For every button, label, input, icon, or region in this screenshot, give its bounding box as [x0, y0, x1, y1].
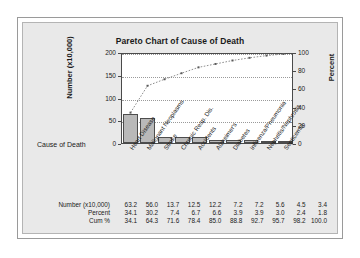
y-axis-left-tick-mark	[118, 99, 121, 100]
figure-panel: Pareto Chart of Cause of Death Number (x…	[22, 22, 338, 234]
table-row: Cum %34.164.371.678.485.088.892.795.798.…	[37, 216, 327, 224]
y-axis-left-tick-label: 100	[90, 95, 116, 102]
table-cell: 3.9	[242, 208, 263, 216]
y-axis-left-title: Number (x10,000)	[65, 18, 74, 118]
data-point-marker	[164, 78, 166, 80]
data-point-marker	[198, 66, 200, 68]
table-cell: 4.5	[285, 200, 306, 208]
y-axis-right-tick-mark	[293, 71, 296, 72]
table-cell: 30.2	[137, 208, 158, 216]
table-cell: 34.1	[116, 216, 137, 224]
table-cell: 6.6	[200, 208, 221, 216]
data-table: Number (x10,000)63.256.013.712.512.27.27…	[37, 200, 327, 225]
y-axis-left-tick-label: 50	[90, 117, 116, 124]
table-cell: 7.2	[221, 200, 242, 208]
table-cell: 13.7	[158, 200, 179, 208]
y-axis-left-tick-label: 150	[90, 72, 116, 79]
data-point-marker	[215, 63, 217, 65]
y-axis-right-tick-label: 80	[298, 67, 320, 74]
table-cell: 85.0	[200, 216, 221, 224]
x-axis-title: Cause of Death	[37, 141, 86, 148]
table-cell: 92.7	[242, 216, 263, 224]
table-cell: 56.0	[137, 200, 158, 208]
table-cell: 3.9	[221, 208, 242, 216]
y-axis-left-tick-label: 0	[90, 140, 116, 147]
table-cell: 71.6	[158, 216, 179, 224]
table-cell: 6.7	[179, 208, 200, 216]
data-point-marker	[130, 112, 132, 114]
y-axis-left-tick-mark	[118, 53, 121, 54]
table-cell: 98.2	[285, 216, 306, 224]
y-axis-left-tick-mark	[118, 76, 121, 77]
y-axis-right-title: Percent	[327, 18, 336, 118]
y-axis-right-tick-label: 100	[298, 49, 320, 56]
table-row: Percent34.130.27.46.76.63.93.93.02.41.8	[37, 208, 327, 216]
table-cell: 88.8	[221, 216, 242, 224]
table-cell: 5.6	[264, 200, 285, 208]
table-cell: 78.4	[179, 216, 200, 224]
table-cell: 2.4	[285, 208, 306, 216]
data-point-marker	[232, 60, 234, 62]
data-point-marker	[283, 53, 285, 55]
y-axis-left-tick-mark	[118, 144, 121, 145]
table-cell: 3.0	[264, 208, 285, 216]
table-cell: 7.4	[158, 208, 179, 216]
y-axis-right-tick-mark	[293, 53, 296, 54]
figure-outer-border: Pareto Chart of Cause of Death Number (x…	[17, 17, 343, 239]
data-point-marker	[147, 85, 149, 87]
table-row-label: Number (x10,000)	[37, 200, 116, 208]
table-row-label: Percent	[37, 208, 116, 216]
table-cell: 100.0	[306, 216, 327, 224]
table-row: Number (x10,000)63.256.013.712.512.27.27…	[37, 200, 327, 208]
table-cell: 34.1	[116, 208, 137, 216]
table-cell: 95.7	[264, 216, 285, 224]
y-axis-right-tick-mark	[293, 89, 296, 90]
y-axis-right-tick-label: 60	[298, 85, 320, 92]
y-axis-right-tick-label: 0	[298, 140, 320, 147]
data-point-marker	[181, 72, 183, 74]
table-cell: 1.8	[306, 208, 327, 216]
data-point-marker	[266, 55, 268, 57]
table-cell: 3.4	[306, 200, 327, 208]
y-axis-right-tick-mark	[293, 144, 296, 145]
table-cell: 64.3	[137, 216, 158, 224]
table-cell: 7.2	[242, 200, 263, 208]
table-cell: 63.2	[116, 200, 137, 208]
y-axis-left-tick-mark	[118, 121, 121, 122]
table-cell: 12.5	[179, 200, 200, 208]
y-axis-left-tick-label: 200	[90, 49, 116, 56]
data-point-marker	[249, 57, 251, 59]
table-cell: 12.2	[200, 200, 221, 208]
table-row-label: Cum %	[37, 216, 116, 224]
